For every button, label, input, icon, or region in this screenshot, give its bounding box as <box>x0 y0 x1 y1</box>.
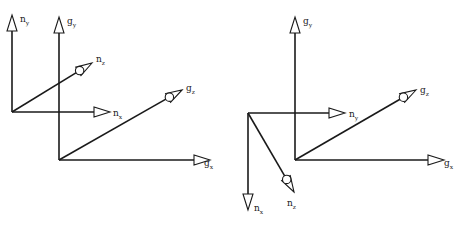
cone-base-circle-icon <box>283 175 291 183</box>
frame-g: gygxgz <box>290 16 454 170</box>
axis-label-g-y: gy <box>67 16 77 29</box>
arrowhead-icon <box>54 17 64 33</box>
axis-n-x: nx <box>243 113 264 215</box>
axis-label-g-z: gz <box>186 83 195 95</box>
axis-n-y: ny <box>248 108 359 122</box>
axis-label-g-z: gz <box>420 85 429 97</box>
axis-label-g-x: gx <box>444 158 454 170</box>
axis-g-x: gx <box>59 155 214 170</box>
axis-g-z: gz <box>295 85 429 160</box>
axis-g-z: gz <box>59 83 195 160</box>
axis-g-y: gy <box>54 16 77 160</box>
figure-right: nxnynzgygxgz <box>243 16 454 215</box>
arrowhead-icon <box>329 108 345 118</box>
axis-n-y: ny <box>7 14 30 112</box>
diagram-layer: nynxnzgygxgznxnynzgygxgz <box>7 14 454 215</box>
axis-label-n-z: nz <box>287 198 296 210</box>
axis-n-x: nx <box>12 107 123 120</box>
arrowhead-icon <box>428 155 444 165</box>
axis-label-n-x: nx <box>254 203 264 215</box>
arrowhead-icon <box>7 15 17 31</box>
arrowhead-icon <box>243 194 253 210</box>
cone-base-circle-icon <box>165 93 173 101</box>
axis-line <box>248 113 286 178</box>
axis-n-z: nz <box>248 113 296 210</box>
frame-n: nxnynz <box>243 108 359 215</box>
arrowhead-icon <box>94 107 110 117</box>
cone-base-circle-icon <box>399 93 407 101</box>
axis-label-n-y: ny <box>349 109 359 122</box>
axis-label-n-x: nx <box>113 108 123 120</box>
axis-label-g-x: gx <box>204 158 214 170</box>
axis-line <box>295 98 402 160</box>
axis-label-n-z: nz <box>96 54 105 66</box>
cone-base-circle-icon <box>75 66 83 74</box>
axis-label-g-y: gy <box>303 16 313 29</box>
axis-line <box>12 71 78 112</box>
figure-left: nynxnzgygxgz <box>7 14 214 170</box>
arrowhead-icon <box>290 17 300 33</box>
frame-n: nynxnz <box>7 14 123 120</box>
axis-label-n-y: ny <box>20 14 30 27</box>
frame-g: gygxgz <box>54 16 214 170</box>
axis-g-x: gx <box>295 155 454 170</box>
coordinate-frames-diagram: nynxnzgygxgznxnynzgygxgz <box>0 0 464 226</box>
axis-g-y: gy <box>290 16 313 160</box>
